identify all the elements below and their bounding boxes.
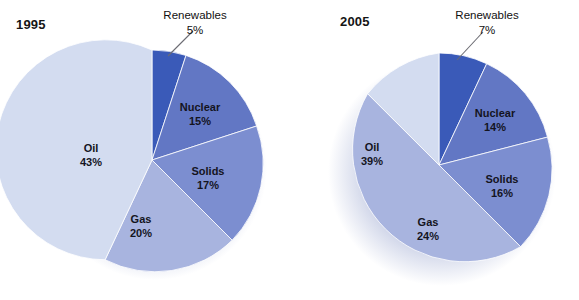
slice-label-renewables-value: 7% [407, 23, 567, 38]
slice-label-renewables: Renewables 7% [407, 8, 567, 38]
slice-label-renewables-name: Renewables [455, 9, 518, 21]
slice-label-renewables-value: 5% [115, 23, 275, 38]
pie-chart-2005: 2005 Renewables 7% [289, 0, 579, 300]
slice-label-renewables-name: Renewables [163, 9, 226, 21]
pie-chart-1995: 1995 Renewables [0, 0, 290, 300]
pie-svg-2005 [289, 0, 579, 300]
pie-svg-1995 [0, 0, 290, 300]
energy-mix-pie-figure: 1995 Renewables [0, 0, 579, 300]
slice-label-renewables: Renewables 5% [115, 8, 275, 38]
